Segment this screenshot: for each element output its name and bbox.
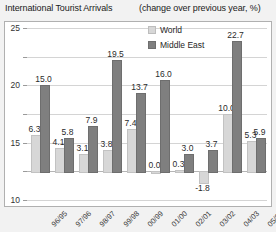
bar-value-label: 22.7	[227, 30, 244, 40]
bar-middle-east	[232, 41, 242, 173]
y-axis-tick: 15	[23, 85, 27, 86]
legend-label-middle-east: Middle East	[160, 40, 204, 50]
legend-item-world: World	[148, 25, 212, 35]
bar-middle-east	[112, 60, 122, 174]
bar-value-label: 3.0	[182, 143, 194, 153]
legend-item-middle-east: Middle East	[148, 40, 212, 50]
gridline	[27, 28, 267, 29]
legend-swatch-middle-east-icon	[148, 41, 156, 49]
bar-value-label: 16.0	[155, 69, 172, 79]
bar-value-label: 3.7	[206, 139, 218, 149]
x-axis-tick-label: 04/03	[242, 209, 262, 229]
bar-middle-east	[160, 80, 170, 174]
bar-value-label: 5.8	[62, 127, 74, 137]
y-axis-tick-label: 25	[11, 23, 20, 33]
plot-area: -505101520256.315.04.15.83.17.93.819.57.…	[27, 28, 267, 200]
bar-middle-east	[136, 93, 146, 174]
x-axis-tick-label: 96/95	[50, 209, 70, 229]
y-axis-tick: -5	[23, 200, 27, 201]
legend-label-world: World	[160, 25, 182, 35]
x-axis-tick-label: 03/02	[218, 209, 238, 229]
x-axis-tick-label: 97/96	[74, 209, 94, 229]
bar-middle-east	[88, 126, 98, 173]
gridline	[27, 200, 267, 201]
bar-middle-east	[256, 138, 266, 174]
x-axis-tick-label: 99/98	[122, 209, 142, 229]
y-axis-tick: 10	[23, 114, 27, 115]
chart-panel: International Tourist Arrivals (change o…	[0, 0, 276, 232]
bar-middle-east	[184, 154, 194, 173]
bar-value-label: -1.8	[195, 183, 210, 193]
bar-middle-east	[208, 150, 218, 173]
chart-legend: World Middle East	[148, 25, 212, 55]
x-axis-tick-label: 02/01	[194, 209, 214, 229]
bar-value-label: 13.7	[131, 82, 148, 92]
y-axis-tick-label: 15	[11, 138, 20, 148]
y-axis-tick: 5	[23, 143, 27, 144]
page-title: International Tourist Arrivals	[5, 3, 112, 13]
x-axis-labels: 96/9597/9698/9799/9800/9901/0002/0103/02…	[4, 207, 272, 232]
y-axis-tick: 0	[23, 171, 27, 172]
x-axis-tick-label: 98/97	[98, 209, 118, 229]
y-axis-tick: 25	[23, 28, 27, 29]
x-axis-tick-label: 01/00	[170, 209, 190, 229]
bar-value-label: 19.5	[107, 49, 124, 59]
bar-middle-east	[64, 138, 74, 173]
y-axis-tick-label: 20	[11, 80, 20, 90]
x-axis-tick-label: 05/04	[266, 209, 276, 229]
plot-frame: -505101520256.315.04.15.83.17.93.819.57.…	[4, 21, 272, 207]
bar-value-label: 5.9	[254, 127, 266, 137]
bar-value-label: 15.0	[35, 74, 52, 84]
chart-subtitle: (change over previous year, %)	[139, 3, 261, 13]
y-axis-tick: 20	[23, 57, 27, 58]
y-axis-tick-label: 10	[11, 195, 20, 205]
legend-swatch-world-icon	[148, 26, 156, 34]
bar-middle-east	[40, 85, 50, 173]
bar-value-label: 7.9	[86, 115, 98, 125]
x-axis-tick-label: 00/99	[146, 209, 166, 229]
chart-header: International Tourist Arrivals (change o…	[0, 0, 276, 20]
